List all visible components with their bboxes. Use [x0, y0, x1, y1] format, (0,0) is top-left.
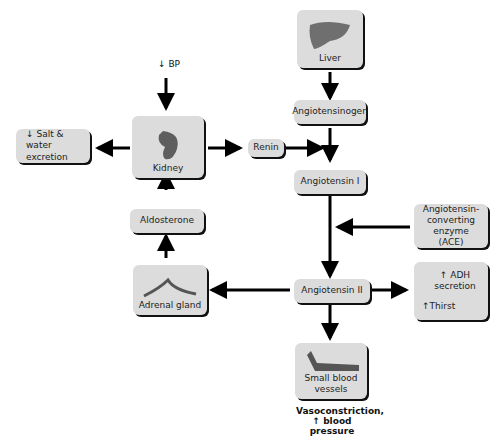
up-arrow-icon: ↑ — [422, 301, 430, 311]
bp-label: ↓ BP — [158, 59, 180, 69]
salt-water-node: ↓ Salt & water excretion — [16, 129, 90, 163]
up-arrow-icon: ↑ — [312, 416, 320, 426]
down-arrow-icon: ↓ — [26, 129, 34, 139]
angiotensin-ii-node: Angiotensin II — [294, 279, 370, 303]
aldosterone-node: Aldosterone — [130, 209, 204, 233]
ace-node: Angiotensin- converting enzyme (ACE) — [414, 204, 488, 248]
small-blood-vessels-node: Small blood vessels — [295, 343, 367, 399]
liver-icon — [306, 19, 354, 53]
adrenal-gland-node: Adrenal gland — [133, 265, 207, 315]
kidney-icon — [153, 129, 183, 163]
down-arrow-icon: ↓ — [158, 59, 166, 69]
up-arrow-icon: ↑ — [440, 270, 448, 280]
adrenal-gland-icon — [142, 278, 198, 300]
adh-thirst-node: ↑ ADH secretion ↑Thirst — [414, 262, 488, 320]
raas-diagram: ↓ BP Liver Angiotensinogen Renin Angiote… — [0, 0, 501, 441]
vasoconstriction-label: Vasoconstriction, ↑ blood pressure — [296, 406, 368, 436]
angiotensinogen-node: Angiotensinogen — [294, 100, 366, 124]
blood-vessel-icon — [303, 351, 359, 373]
kidney-node: Kidney — [132, 116, 204, 178]
angiotensin-i-node: Angiotensin I — [294, 170, 366, 194]
liver-node: Liver — [297, 10, 363, 68]
renin-node: Renin — [248, 139, 284, 157]
